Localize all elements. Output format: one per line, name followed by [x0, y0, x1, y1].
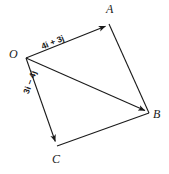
vector-diagram-figure: 4i + 3j 3i − 4j A O B C [0, 0, 169, 174]
edge-line-cb [57, 113, 149, 146]
vector-arrow-oa [26, 26, 106, 58]
vertex-label-o: O [9, 48, 18, 60]
vertex-label-a: A [106, 3, 113, 15]
edge-line-ab [109, 24, 149, 113]
vertex-label-c: C [52, 153, 60, 165]
vertex-label-b: B [153, 108, 160, 120]
vector-arrow-ob [26, 58, 145, 111]
